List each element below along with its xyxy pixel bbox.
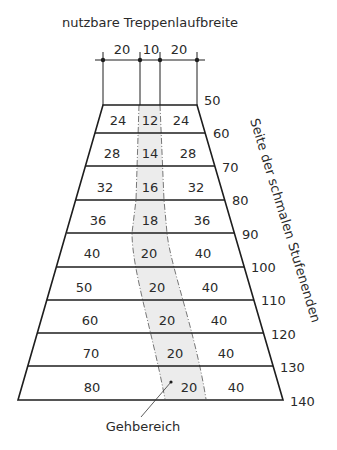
row-5-center: 20 [141, 246, 158, 261]
side-value: 80 [232, 193, 249, 208]
row-5-left: 40 [84, 246, 101, 261]
row-3-left: 32 [97, 180, 114, 195]
diagram-title: nutzbare Treppenlaufbreite [62, 15, 238, 30]
stair-width-diagram: nutzbare Treppenlaufbreite 20 10 20 24 1… [0, 0, 337, 450]
row-2-right: 28 [180, 146, 197, 161]
row-4-right: 36 [194, 213, 211, 228]
row-1-right: 24 [173, 113, 190, 128]
side-value: 70 [222, 160, 239, 175]
row-8-right: 40 [218, 346, 235, 361]
row-5-right: 40 [195, 246, 212, 261]
walk-zone-leader-dot [169, 380, 172, 383]
row-2-center: 14 [142, 146, 159, 161]
side-value: 130 [280, 360, 305, 375]
row-8-left: 70 [83, 346, 100, 361]
row-1-center: 12 [142, 113, 159, 128]
side-value: 120 [271, 327, 296, 342]
row-3-right: 32 [188, 180, 205, 195]
dimension-left: 20 [114, 42, 131, 57]
row-4-left: 36 [90, 213, 107, 228]
row-9-center: 20 [181, 380, 198, 395]
side-value: 90 [242, 227, 259, 242]
walk-zone-label: Gehbereich [106, 419, 181, 434]
dimension-point [138, 58, 142, 62]
row-8-center: 20 [167, 346, 184, 361]
side-value: 140 [290, 394, 315, 409]
dimension-point [158, 58, 162, 62]
dimension-point [195, 58, 199, 62]
dimension-center: 10 [143, 42, 160, 57]
row-9-right: 40 [228, 380, 245, 395]
dimension-point [101, 58, 105, 62]
row-3-center: 16 [142, 180, 159, 195]
side-value: 60 [213, 126, 230, 141]
side-value: 110 [261, 293, 286, 308]
row-7-left: 60 [82, 313, 99, 328]
side-value: 100 [251, 260, 276, 275]
row-2-left: 28 [104, 146, 121, 161]
row-4-center: 18 [142, 213, 159, 228]
row-6-center: 20 [149, 280, 166, 295]
row-7-center: 20 [159, 313, 176, 328]
row-9-left: 80 [84, 380, 101, 395]
dimension-line: 20 10 20 [95, 42, 205, 105]
row-7-right: 40 [211, 313, 228, 328]
row-6-right: 40 [202, 280, 219, 295]
row-1-left: 24 [110, 113, 127, 128]
row-6-left: 50 [76, 280, 93, 295]
side-value: 50 [204, 93, 221, 108]
dimension-right: 20 [171, 42, 188, 57]
